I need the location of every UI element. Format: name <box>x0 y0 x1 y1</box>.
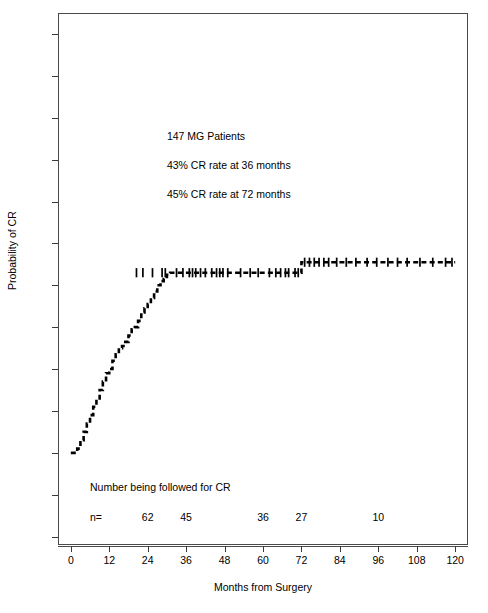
risk-table-count: 10 <box>372 511 384 523</box>
risk-table-count: 36 <box>257 511 269 523</box>
risk-table-count: 62 <box>142 511 154 523</box>
chart-annotation-3: 45% CR rate at 72 months <box>167 188 291 200</box>
risk-table-count: 27 <box>296 511 308 523</box>
chart-annotation-1: 147 MG Patients <box>167 130 245 142</box>
risk-table-row-label: n= <box>90 511 102 523</box>
risk-table-count: 45 <box>180 511 192 523</box>
chart-figure: Probability of CR -0.2-0.10.00.10.20.30.… <box>0 0 488 613</box>
annotation-layer: 147 MG Patients43% CR rate at 36 months4… <box>0 0 488 613</box>
chart-annotation-2: 43% CR rate at 36 months <box>167 159 291 171</box>
risk-table-caption: Number being followed for CR <box>90 481 231 493</box>
